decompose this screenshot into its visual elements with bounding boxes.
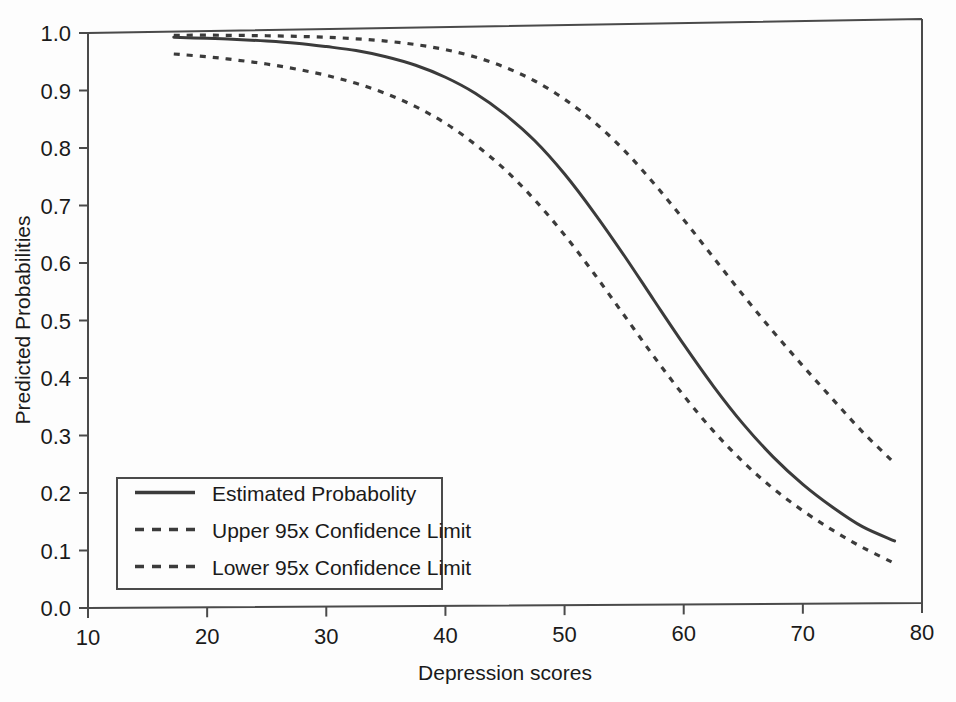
legend-item[interactable]: Estimated Probabolity xyxy=(135,482,417,505)
figure-canvas: 0.00.10.20.30.40.50.60.70.80.91.0 102030… xyxy=(0,0,956,702)
y-tick-label: 0.9 xyxy=(40,79,71,104)
y-tick-label: 0.6 xyxy=(40,251,71,276)
legend-items: Estimated ProbabolityUpper 95x Confidenc… xyxy=(135,482,471,579)
y-tick-label: 0.8 xyxy=(40,136,71,161)
y-tick-label: 0.5 xyxy=(40,309,71,334)
y-tick-label: 1.0 xyxy=(40,21,71,46)
y-tick-label: 0.3 xyxy=(40,424,71,449)
x-tick-label: 40 xyxy=(433,623,457,648)
x-tick-label: 60 xyxy=(671,621,695,646)
y-axis-title: Predicted Probabilities xyxy=(11,216,34,425)
legend-item[interactable]: Lower 95x Confidence Limit xyxy=(135,556,471,579)
legend-item[interactable]: Upper 95x Confidence Limit xyxy=(135,519,471,542)
x-tick-label: 80 xyxy=(910,620,934,645)
y-tick-label: 0.0 xyxy=(40,596,71,621)
series-line-1 xyxy=(174,37,895,541)
x-axis-ticks: 1020304050607080 xyxy=(76,603,934,650)
x-tick-label: 30 xyxy=(314,624,338,649)
predicted-probabilities-chart: 0.00.10.20.30.40.50.60.70.80.91.0 102030… xyxy=(0,0,956,702)
legend-item-label: Upper 95x Confidence Limit xyxy=(212,519,471,542)
x-tick-label: 20 xyxy=(195,624,219,649)
chart-legend: Estimated ProbabolityUpper 95x Confidenc… xyxy=(117,478,471,589)
y-tick-label: 0.7 xyxy=(40,194,71,219)
x-tick-label: 50 xyxy=(552,622,576,647)
legend-item-label: Estimated Probabolity xyxy=(212,482,417,505)
y-axis-ticks: 0.00.10.20.30.40.50.60.70.80.91.0 xyxy=(40,21,88,621)
series-line-2 xyxy=(174,35,895,463)
y-tick-label: 0.1 xyxy=(40,539,71,564)
legend-item-label: Lower 95x Confidence Limit xyxy=(212,556,471,579)
x-tick-label: 70 xyxy=(791,621,815,646)
y-tick-label: 0.2 xyxy=(40,481,71,506)
y-tick-label: 0.4 xyxy=(40,366,71,391)
x-tick-label: 10 xyxy=(76,625,100,650)
x-axis-title: Depression scores xyxy=(418,661,592,684)
